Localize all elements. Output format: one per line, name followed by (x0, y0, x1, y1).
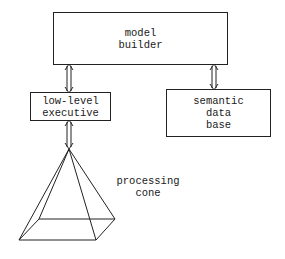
double-arrow-builder-database (210, 64, 218, 90)
double-arrow-builder-executive (65, 64, 73, 93)
low-level-executive-label: low-level executive (42, 95, 99, 119)
processing-cone-pyramid (19, 149, 115, 240)
processing-cone-label: processing cone (108, 175, 188, 199)
low-level-executive-box: low-level executive (30, 92, 111, 121)
semantic-data-base-box: semantic data base (166, 89, 271, 137)
model-builder-box: model builder (53, 12, 228, 65)
semantic-data-base-label: semantic data base (193, 95, 243, 131)
model-builder-label: model builder (118, 27, 162, 51)
double-arrow-executive-cone (65, 120, 73, 149)
